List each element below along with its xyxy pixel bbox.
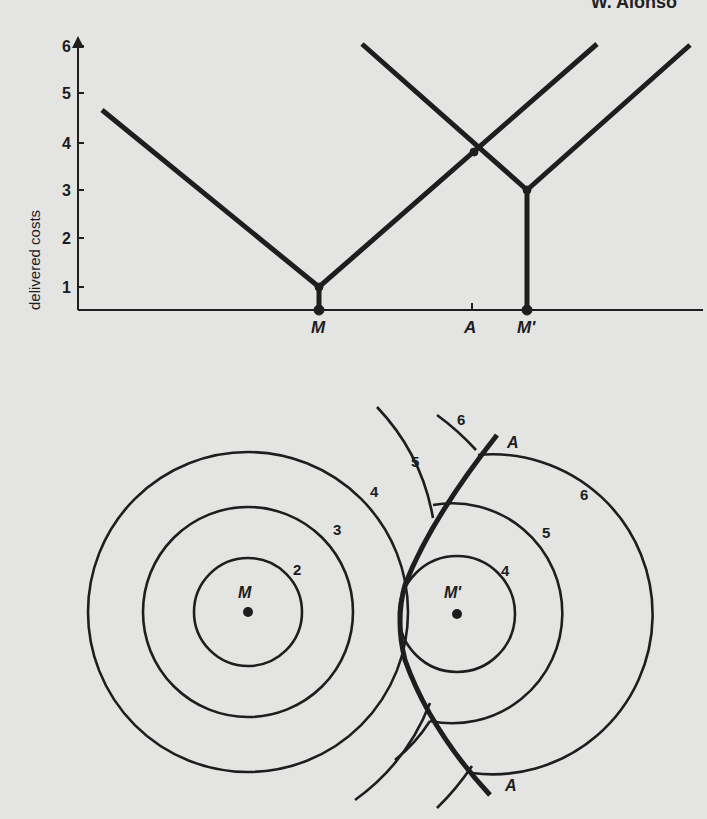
y-tick-2: 2 [62, 230, 71, 247]
bottom-diagram [88, 407, 653, 808]
M-contour-label-2: 2 [293, 561, 301, 578]
y-tick-4: 4 [62, 135, 71, 152]
M-contour-label-6: 6 [457, 411, 465, 428]
M-prime-contour-label-4: 4 [501, 562, 510, 579]
center-M-prime-label: M' [444, 584, 462, 601]
M-contour-label-5: 5 [411, 453, 419, 470]
M-contour-label-3: 3 [333, 521, 341, 538]
cost-line-M-prime [362, 44, 690, 190]
x-label-M-prime: M' [517, 318, 536, 337]
y-tick-1: 1 [62, 279, 71, 296]
cost-line-M [102, 44, 597, 287]
M-contour-5-lower [355, 703, 430, 800]
boundary-label-top: A [506, 434, 519, 451]
top-chart [72, 36, 703, 315]
y-tick-6: 6 [62, 38, 71, 55]
center-M-label: M [238, 584, 252, 601]
M-prime-contour-label-6: 6 [580, 486, 588, 503]
x-label-M: M [311, 318, 326, 337]
diagram-canvas: 1 2 3 4 5 6 delivered costs M A M' [0, 0, 707, 819]
y-axis-label: delivered costs [26, 210, 43, 310]
y-tick-5: 5 [62, 85, 71, 102]
M-prime-contour-label-5: 5 [542, 524, 550, 541]
M-prime-point-icon [522, 305, 532, 315]
M-contour-6-lower [437, 766, 472, 808]
y-tick-3: 3 [62, 182, 71, 199]
M-contour-label-4: 4 [370, 483, 379, 500]
M-contour-5 [377, 407, 433, 518]
M-point-icon [314, 305, 324, 315]
x-label-A: A [463, 318, 476, 337]
y-tick-labels: 1 2 3 4 5 6 [62, 38, 71, 296]
M-center-icon [243, 607, 253, 617]
boundary-label-bottom: A [504, 777, 517, 794]
M-prime-center-icon [452, 609, 462, 619]
